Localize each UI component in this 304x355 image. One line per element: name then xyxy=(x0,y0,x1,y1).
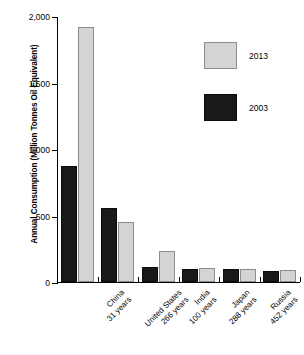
legend-item: 2013 xyxy=(204,42,268,69)
bar-group xyxy=(138,16,179,282)
bar-united-states-2003 xyxy=(101,208,117,282)
bar-group xyxy=(98,16,139,282)
legend-label: 2013 xyxy=(249,51,268,61)
bar-china-2003 xyxy=(61,166,77,282)
bar-russia-2013 xyxy=(240,269,256,282)
bar-china-2013 xyxy=(78,27,94,282)
legend-label: 2003 xyxy=(249,103,268,113)
bar-group xyxy=(57,16,98,282)
x-axis-label: India100 years xyxy=(180,288,218,326)
bar-south-africa-2003 xyxy=(263,271,279,282)
bar-south-africa-2013 xyxy=(280,270,296,282)
legend-item: 2003 xyxy=(204,94,268,121)
x-axis-line xyxy=(57,282,300,283)
y-tick-label: 1,000 xyxy=(29,145,50,155)
y-tick-label: 2,000 xyxy=(29,12,50,22)
x-axis-label: Russia452 years xyxy=(261,288,299,326)
bar-russia-2003 xyxy=(223,269,239,282)
y-tick-label: 500 xyxy=(36,212,50,222)
y-tick-mark xyxy=(52,283,57,284)
y-tick-label: 0 xyxy=(45,278,50,288)
bar-chart: Annual Consumption (Million Tonnes Oil E… xyxy=(0,0,304,355)
y-tick-label: 1,500 xyxy=(29,79,50,89)
x-axis-label: China31 years xyxy=(98,288,133,323)
bar-japan-2013 xyxy=(199,268,215,282)
bar-india-2003 xyxy=(142,267,158,282)
legend-swatch xyxy=(204,94,237,121)
legend-swatch xyxy=(204,42,237,69)
bar-india-2013 xyxy=(159,251,175,282)
bar-japan-2003 xyxy=(182,269,198,282)
x-tick-mark xyxy=(300,277,301,282)
x-axis-label: Japan288 years xyxy=(220,288,258,326)
bar-united-states-2013 xyxy=(118,222,134,283)
